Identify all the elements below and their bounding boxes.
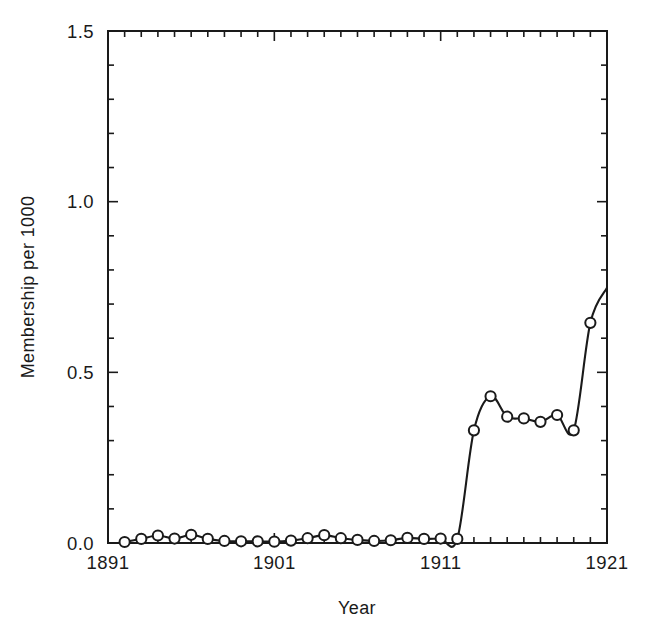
data-point-marker — [419, 534, 429, 544]
data-point-marker — [585, 318, 595, 328]
data-point-marker — [469, 425, 479, 435]
data-point-marker — [352, 535, 362, 545]
y-axis-title: Membership per 1000 — [18, 196, 38, 379]
data-point-marker — [120, 537, 130, 547]
x-tick-label: 1891 — [87, 552, 130, 573]
y-tick-label: 1.5 — [67, 21, 94, 42]
data-point-marker — [236, 536, 246, 546]
data-point-marker — [485, 391, 495, 401]
data-point-marker — [169, 533, 179, 543]
chart-background — [0, 0, 656, 642]
data-point-marker — [253, 536, 263, 546]
data-point-marker — [303, 533, 313, 543]
data-point-marker — [402, 533, 412, 543]
data-point-marker — [336, 533, 346, 543]
x-axis-title: Year — [338, 598, 376, 618]
data-point-marker — [552, 410, 562, 420]
data-point-marker — [186, 530, 196, 540]
y-tick-label: 1.0 — [67, 191, 94, 212]
data-point-marker — [203, 534, 213, 544]
data-point-marker — [502, 412, 512, 422]
data-point-marker — [535, 417, 545, 427]
data-point-marker — [386, 535, 396, 545]
data-point-marker — [519, 413, 529, 423]
x-tick-label: 1911 — [420, 552, 461, 573]
data-point-marker — [452, 534, 462, 544]
data-point-marker — [269, 537, 279, 547]
data-point-marker — [219, 536, 229, 546]
line-chart-svg: 1891190119111921 0.00.51.01.5 Year Membe… — [0, 0, 656, 642]
data-point-marker — [286, 536, 296, 546]
x-tick-label: 1921 — [586, 552, 629, 573]
x-tick-label: 1901 — [253, 552, 296, 573]
data-point-marker — [319, 530, 329, 540]
data-point-marker — [436, 533, 446, 543]
y-tick-label: 0.0 — [67, 533, 94, 554]
data-point-marker — [369, 536, 379, 546]
data-point-marker — [569, 425, 579, 435]
data-point-marker — [136, 534, 146, 544]
y-tick-label: 0.5 — [67, 362, 94, 383]
data-point-marker — [153, 530, 163, 540]
